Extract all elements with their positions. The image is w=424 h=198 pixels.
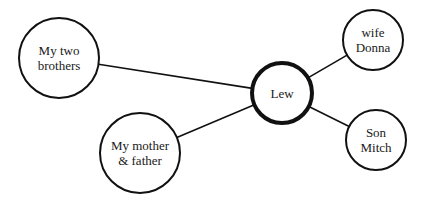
node-label-donna: wife Donna [356, 25, 391, 55]
label-line: brothers [38, 58, 81, 73]
edge-mitch-lew [309, 106, 349, 126]
edge-brothers-lew [99, 64, 253, 88]
label-line: Lew [270, 86, 293, 101]
label-line: wife [356, 25, 391, 40]
label-line: Son [360, 125, 391, 140]
edge-parents-lew [177, 105, 255, 138]
label-line: Mitch [360, 140, 391, 155]
node-label-brothers: My two brothers [38, 43, 81, 73]
label-line: My two [38, 43, 81, 58]
label-line: Donna [356, 40, 391, 55]
node-label-mitch: Son Mitch [360, 125, 391, 155]
edge-donna-lew [308, 55, 347, 78]
label-line: My mother [111, 138, 169, 153]
nodes [19, 10, 406, 193]
label-line: & father [111, 153, 169, 168]
node-label-lew: Lew [270, 86, 293, 101]
node-label-parents: My mother & father [111, 138, 169, 168]
